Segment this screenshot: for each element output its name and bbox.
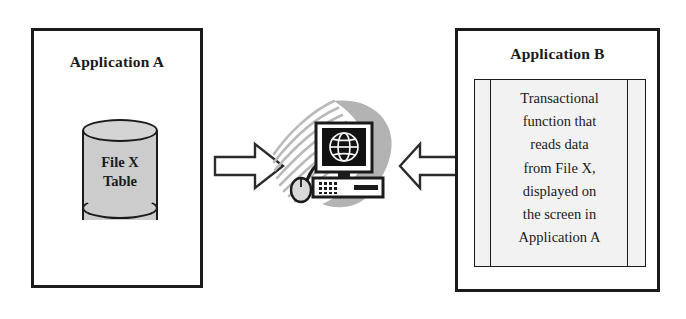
application-a-box: Application A File X Table: [31, 28, 203, 288]
cylinder-top-ellipse: [82, 119, 158, 142]
transactional-function-text: Transactional function that reads data f…: [492, 87, 627, 249]
application-a-title: Application A: [34, 53, 200, 71]
application-b-title: Application B: [458, 45, 657, 63]
transactional-function-document: Transactional function that reads data f…: [474, 79, 646, 267]
cylinder-label: File X Table: [82, 153, 158, 190]
computer-workstation-graphic: [272, 92, 402, 214]
block-arrow-left-icon: [398, 141, 460, 191]
cylinder-label-line-2: Table: [82, 172, 158, 191]
doc-line-5: displayed on: [492, 180, 627, 203]
keyboard-icon: [313, 178, 383, 197]
mouse-icon: [291, 178, 311, 202]
document-right-margin-rule: [627, 80, 628, 266]
file-x-table-cylinder: File X Table: [82, 119, 158, 231]
doc-line-2: function that: [492, 110, 627, 133]
cylinder-bottom-ellipse: [82, 197, 158, 219]
document-left-margin-rule: [490, 80, 491, 266]
computer-workstation-icon: [272, 92, 402, 214]
doc-line-1: Transactional: [492, 87, 627, 110]
doc-line-3: reads data: [492, 133, 627, 156]
monitor-icon: [316, 123, 372, 177]
application-b-box: Application B Transactional function tha…: [455, 28, 660, 292]
cylinder-label-line-1: File X: [82, 153, 158, 172]
doc-line-4: from File X,: [492, 157, 627, 180]
doc-line-7: Application A: [492, 226, 627, 249]
doc-line-6: the screen in: [492, 203, 627, 226]
diagram-canvas: Application A File X Table: [0, 0, 686, 319]
